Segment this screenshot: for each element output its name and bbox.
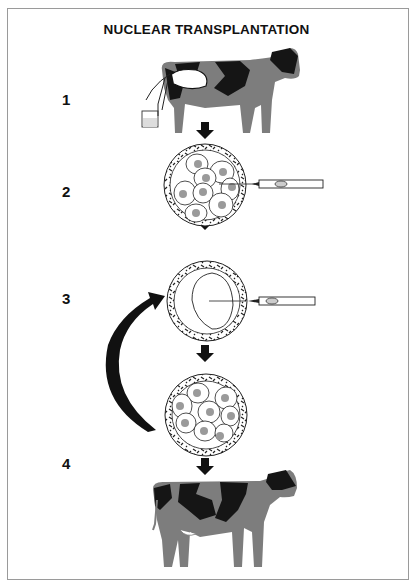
donor-cow-illustration [142, 48, 300, 133]
embryo-cloned [165, 374, 247, 456]
embryo-step-2 [164, 144, 323, 226]
arrow-down-icon [196, 458, 214, 475]
cloned-cow-illustration [153, 470, 297, 567]
arrow-down-icon [196, 122, 214, 139]
arrow-down-icon [196, 345, 214, 362]
micropipette-icon [259, 180, 323, 188]
recycle-arrow-icon [106, 292, 165, 432]
diagram-illustration [0, 0, 413, 586]
egg-step-3 [167, 261, 315, 341]
